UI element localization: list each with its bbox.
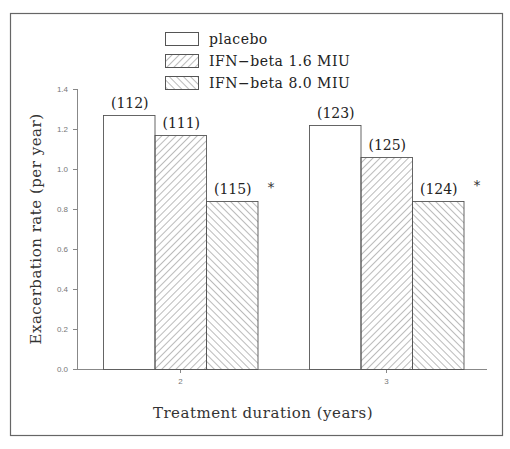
sample-size-label: (112) [111, 95, 149, 111]
legend-label-ifn-1-6: IFN−beta 1.6 MIU [209, 53, 350, 69]
bar-ifn-1-6-year-2 [155, 136, 207, 370]
bars: (112)(111)(115)(123)(125)(124)** [104, 95, 481, 370]
y-tick-label: 1.0 [57, 165, 69, 174]
y-tick-label: 0.8 [57, 205, 69, 214]
sample-size-label: (123) [317, 105, 355, 121]
y-tick-label: 1.4 [57, 85, 69, 94]
significance-asterisk: * [268, 179, 275, 195]
bar-ifn-1-6-year-3 [361, 158, 413, 370]
legend-label-placebo: placebo [209, 31, 268, 47]
sample-size-label: (115) [214, 181, 252, 197]
legend: placebo IFN−beta 1.6 MIU IFN−beta 8.0 MI… [166, 31, 351, 91]
bar-ifn-8-0-year-3 [413, 202, 465, 370]
x-tick-label-3: 3 [384, 377, 389, 386]
y-tick-label: 0.2 [57, 325, 69, 334]
sample-size-label: (125) [368, 137, 406, 153]
y-tick-label: 0.0 [57, 365, 69, 374]
sample-size-label: (124) [420, 181, 458, 197]
y-tick-label: 1.2 [57, 125, 69, 134]
y-tick-label: 0.6 [57, 245, 69, 254]
y-axis: 0.00.20.40.60.81.01.21.4 [57, 85, 78, 374]
x-axis-title: Treatment duration (years) [153, 404, 373, 422]
legend-swatch-placebo [166, 33, 199, 46]
y-tick-label: 0.4 [57, 285, 69, 294]
y-axis-title: Exacerbation rate (per year) [27, 113, 45, 344]
bar-chart: placebo IFN−beta 1.6 MIU IFN−beta 8.0 MI… [0, 0, 510, 449]
significance-asterisk: * [474, 177, 481, 193]
bar-ifn-8-0-year-2 [207, 202, 259, 370]
bar-placebo-year-2 [104, 116, 156, 370]
x-tick-label-2: 2 [178, 377, 183, 386]
legend-label-ifn-8-0: IFN−beta 8.0 MIU [209, 75, 350, 91]
legend-swatch-ifn-8-0 [166, 77, 199, 90]
cutoff-caption-fragment [14, 443, 504, 449]
sample-size-label: (111) [162, 115, 200, 131]
x-axis: 2 3 [77, 369, 487, 386]
legend-swatch-ifn-1-6 [166, 55, 199, 68]
bar-placebo-year-3 [310, 126, 362, 370]
